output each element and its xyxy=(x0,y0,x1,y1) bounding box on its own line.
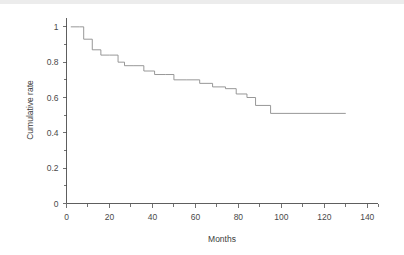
x-tick-label: 20 xyxy=(105,212,115,222)
y-tick-label: 0 xyxy=(54,199,59,209)
y-axis-tick-labels: 00.20.40.60.81 xyxy=(47,22,59,209)
x-axis-tick-labels: 020406080100120140 xyxy=(64,212,374,222)
figure-canvas: 00.20.40.60.81 020406080100120140 Months… xyxy=(0,0,404,255)
y-tick-label: 0.6 xyxy=(47,93,59,103)
x-axis-title: Months xyxy=(208,234,236,244)
x-tick-label: 100 xyxy=(274,212,288,222)
x-tick-label: 60 xyxy=(191,212,201,222)
x-tick-label: 0 xyxy=(64,212,69,222)
y-axis-title: Cumulative rate xyxy=(25,80,35,140)
top-border-strip xyxy=(0,0,404,4)
y-tick-label: 1 xyxy=(54,22,59,32)
kaplan-meier-chart: 00.20.40.60.81 020406080100120140 Months… xyxy=(0,0,404,255)
x-tick-label: 40 xyxy=(148,212,158,222)
cumulative-rate-step-curve xyxy=(71,27,346,114)
y-tick-label: 0.8 xyxy=(47,57,59,67)
y-tick-label: 0.2 xyxy=(47,163,59,173)
x-tick-label: 140 xyxy=(360,212,374,222)
x-tick-label: 80 xyxy=(234,212,244,222)
x-tick-label: 120 xyxy=(317,212,331,222)
y-tick-label: 0.4 xyxy=(47,128,59,138)
